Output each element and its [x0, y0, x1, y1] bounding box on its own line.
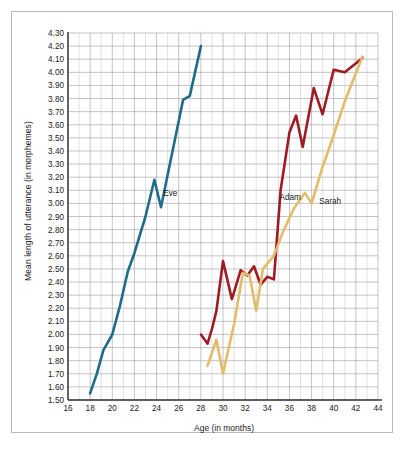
y-axis-tick-label: 4.30: [30, 29, 64, 38]
y-axis-tick-label: 3.70: [30, 107, 64, 116]
y-axis-tick-label: 2.60: [30, 251, 64, 260]
x-axis-title: Age (in months): [68, 423, 380, 433]
y-axis-tick-label: 1.80: [30, 356, 64, 365]
series-label-eve: Eve: [163, 189, 177, 198]
y-axis-tick-label: 2.20: [30, 304, 64, 313]
y-axis-tick-label: 3.20: [30, 173, 64, 182]
y-axis-tick-label: 4.20: [30, 42, 64, 51]
y-axis-tick-label: 2.30: [30, 291, 64, 300]
y-axis-tick-label: 2.40: [30, 278, 64, 287]
y-axis-tick-label: 3.40: [30, 146, 64, 155]
y-axis-tick-label: 2.80: [30, 225, 64, 234]
y-axis-tick-label: 2.90: [30, 212, 64, 221]
y-axis-tick-label: 3.10: [30, 186, 64, 195]
y-axis-tick-label: 3.30: [30, 160, 64, 169]
y-axis-tick-label: 3.50: [30, 133, 64, 142]
y-axis-tick-label: 2.50: [30, 264, 64, 273]
y-axis-tick-label: 3.80: [30, 94, 64, 103]
y-axis-tick-label: 4.10: [30, 55, 64, 64]
y-axis-title: Mean length of utterance (in morphemes): [23, 51, 33, 351]
y-axis-tick-label: 1.60: [30, 382, 64, 391]
y-axis-tick-label: 2.10: [30, 317, 64, 326]
series-label-adam: Adam: [279, 193, 300, 202]
y-axis-tick-label: 2.70: [30, 238, 64, 247]
x-axis-tick-label: 44: [365, 404, 391, 413]
y-axis-tick-label: 1.90: [30, 343, 64, 352]
y-axis-tick-label: 3.90: [30, 81, 64, 90]
y-axis-tick-label: 2.00: [30, 330, 64, 339]
y-axis-tick-label: 1.70: [30, 369, 64, 378]
y-axis-tick-label: 3.00: [30, 199, 64, 208]
series-label-sarah: Sarah: [319, 197, 341, 206]
chart-container: 1.501.601.701.801.902.002.102.202.302.40…: [0, 0, 408, 458]
y-axis-tick-label: 4.00: [30, 68, 64, 77]
series-line-sarah: [208, 57, 363, 374]
y-axis-tick-label: 3.60: [30, 120, 64, 129]
